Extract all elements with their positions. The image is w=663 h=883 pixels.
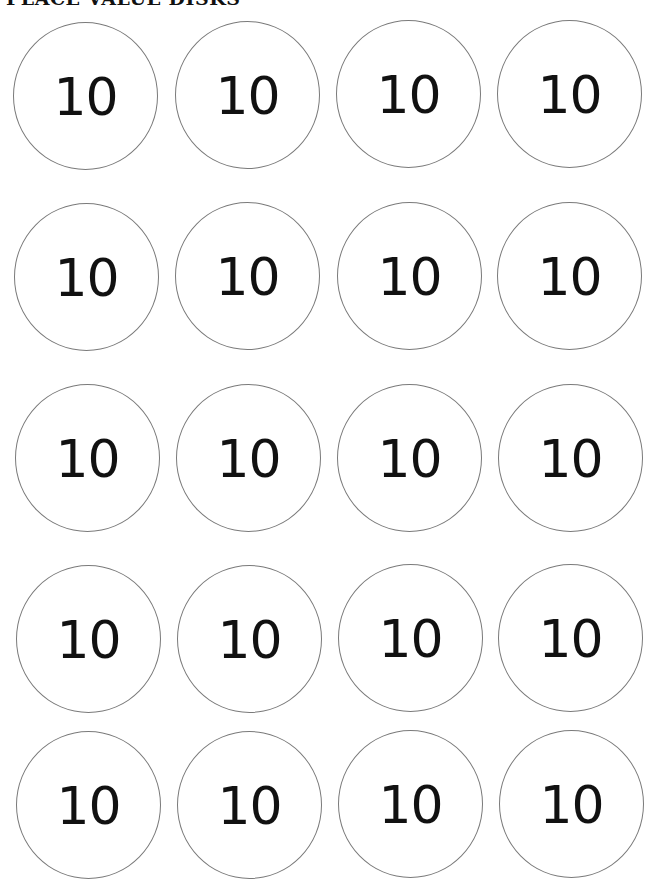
place-value-disk: 10 bbox=[497, 202, 642, 350]
disk-value: 10 bbox=[378, 613, 442, 665]
disk-value: 10 bbox=[217, 780, 281, 832]
disk-value: 10 bbox=[538, 433, 602, 485]
place-value-disk: 10 bbox=[175, 202, 320, 350]
disk-value: 10 bbox=[217, 614, 281, 666]
place-value-disk: 10 bbox=[15, 384, 160, 532]
place-value-disk: 10 bbox=[177, 731, 322, 879]
disk-value: 10 bbox=[216, 433, 280, 485]
place-value-disk: 10 bbox=[14, 203, 159, 351]
place-value-disk: 10 bbox=[16, 565, 161, 713]
disk-value: 10 bbox=[538, 613, 602, 665]
place-value-disk: 10 bbox=[16, 731, 161, 879]
place-value-disk: 10 bbox=[499, 730, 644, 878]
disk-value: 10 bbox=[56, 614, 120, 666]
place-value-disk: 10 bbox=[176, 384, 321, 532]
page-title: PLACE VALUE DISKS bbox=[6, 0, 240, 9]
place-value-disk: 10 bbox=[336, 20, 481, 168]
disk-value: 10 bbox=[377, 433, 441, 485]
place-value-disk: 10 bbox=[338, 730, 483, 878]
place-value-disk: 10 bbox=[13, 22, 158, 170]
place-value-disk: 10 bbox=[337, 384, 482, 532]
place-value-disk: 10 bbox=[175, 21, 320, 169]
disk-value: 10 bbox=[54, 252, 118, 304]
disk-value: 10 bbox=[378, 779, 442, 831]
disk-value: 10 bbox=[537, 69, 601, 121]
disk-value: 10 bbox=[377, 251, 441, 303]
disk-value: 10 bbox=[55, 433, 119, 485]
place-value-disk: 10 bbox=[497, 20, 642, 168]
place-value-disk: 10 bbox=[337, 202, 482, 350]
disk-value: 10 bbox=[376, 69, 440, 121]
disk-value: 10 bbox=[537, 251, 601, 303]
place-value-disk: 10 bbox=[498, 564, 643, 712]
disk-value: 10 bbox=[56, 780, 120, 832]
disk-value: 10 bbox=[539, 779, 603, 831]
disk-value: 10 bbox=[215, 70, 279, 122]
place-value-disk: 10 bbox=[177, 565, 322, 713]
disk-value: 10 bbox=[53, 71, 117, 123]
place-value-disk: 10 bbox=[338, 564, 483, 712]
place-value-disk: 10 bbox=[498, 384, 643, 532]
disk-value: 10 bbox=[215, 251, 279, 303]
